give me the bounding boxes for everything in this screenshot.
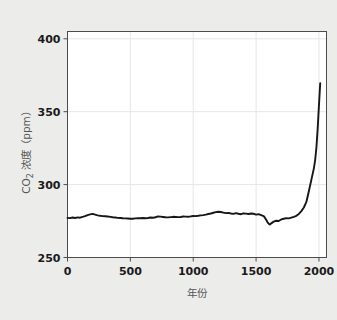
y-axis-title-unit: 浓度（ppm） — [20, 106, 32, 173]
plot-area-background — [68, 32, 327, 258]
x-tick-label: 1500 — [241, 265, 272, 278]
co2-concentration-chart-figure: 2503003504000500100015002000 CO2 浓度（ppm）… — [0, 0, 337, 320]
y-tick-label: 350 — [38, 106, 61, 119]
x-tick-label: 0 — [64, 265, 72, 278]
y-tick-label: 250 — [38, 252, 61, 265]
svg-text:CO2 浓度（ppm）: CO2 浓度（ppm） — [20, 106, 35, 194]
x-axis-title: 年份 — [187, 287, 208, 299]
chart-svg: 2503003504000500100015002000 CO2 浓度（ppm）… — [0, 0, 337, 320]
x-tick-label: 1000 — [178, 265, 209, 278]
y-axis-title-main: CO — [20, 178, 32, 194]
y-tick-label: 400 — [38, 33, 61, 46]
y-axis-title: CO2 浓度（ppm） — [20, 106, 35, 194]
y-tick-label: 300 — [38, 179, 61, 192]
x-tick-label: 500 — [119, 265, 142, 278]
x-tick-label: 2000 — [304, 265, 335, 278]
